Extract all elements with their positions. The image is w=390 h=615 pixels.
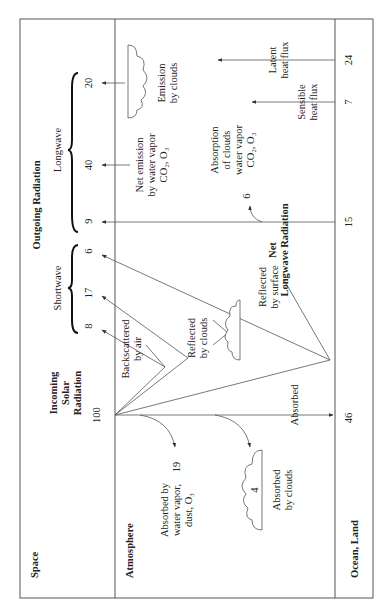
svg-text:by water vapor: by water vapor <box>146 133 157 196</box>
net-longwave-value: 15 <box>343 217 354 228</box>
longwave-absorption-label: Absorption of clouds water vapor CO₂, O₃ <box>209 125 256 175</box>
svg-text:by clouds: by clouds <box>283 470 294 511</box>
latent-heat-value: 24 <box>343 54 354 65</box>
svg-text:water vapor,: water vapor, <box>171 484 182 536</box>
incoming-value: 100 <box>91 407 102 423</box>
backscattered-label: Backscattered by air <box>120 319 143 379</box>
svg-text:Sensible: Sensible <box>296 84 307 120</box>
svg-text:Reflected: Reflected <box>257 266 268 307</box>
svg-text:Absorbed by: Absorbed by <box>159 482 170 537</box>
absorbed-gas-label: Absorbed by water vapor, dust, O₃ <box>159 482 194 537</box>
svg-text:Absorbed: Absorbed <box>271 469 282 511</box>
svg-text:Backscattered: Backscattered <box>120 319 131 379</box>
absorbed-clouds-label: Absorbed by clouds <box>271 469 294 511</box>
svg-text:Net emission: Net emission <box>134 137 145 193</box>
absorbed-clouds-value: 4 <box>249 487 260 493</box>
shortwave-brace <box>68 245 78 333</box>
gas-emission-label: Net emission by water vapor CO₂, O₃ <box>134 133 169 196</box>
absorption-arrow <box>250 206 262 222</box>
svg-text:Longwave Radiation: Longwave Radiation <box>279 203 290 296</box>
svg-text:Emission: Emission <box>156 63 167 103</box>
cloud-emission-label: Emission by clouds <box>156 63 179 104</box>
svg-text:Net: Net <box>267 242 278 258</box>
shortwave-reflected-surface-value: 6 <box>83 248 94 253</box>
radiation-budget-diagram: Space Atmosphere Ocean, Land Incoming So… <box>0 0 390 615</box>
reflecting-cloud-icon <box>225 300 240 360</box>
reflected-surface-leader <box>284 280 330 360</box>
region-label-atmosphere: Atmosphere <box>124 523 135 578</box>
reflected-surface-label: Reflected by surface <box>257 265 280 309</box>
longwave-gas-emission-value: 40 <box>83 160 94 171</box>
svg-text:Solar: Solar <box>60 381 71 405</box>
absorbed-gas-value: 19 <box>171 462 182 473</box>
svg-text:CO₂, O₃: CO₂, O₃ <box>158 147 169 182</box>
emitting-cloud-icon <box>128 45 147 118</box>
longwave-surface-value: 9 <box>83 218 94 223</box>
absorption-value: 6 <box>241 193 252 198</box>
outgoing-radiation-title: Outgoing Radiation <box>31 160 42 249</box>
svg-text:by air: by air <box>132 336 143 361</box>
svg-text:Radiation: Radiation <box>72 371 83 416</box>
shortwave-label: Shortwave <box>52 265 63 310</box>
svg-text:of clouds: of clouds <box>221 131 232 170</box>
sensible-heat-value: 7 <box>343 99 354 104</box>
svg-text:heat flux: heat flux <box>308 83 319 121</box>
longwave-cloud-emission-value: 20 <box>83 78 94 89</box>
incoming-solar-label: Incoming Solar Radiation <box>48 371 83 416</box>
backscattered-leader <box>146 345 165 367</box>
absorbed-clouds-arrow <box>215 415 250 447</box>
svg-text:Latent: Latent <box>267 47 278 74</box>
region-label-surface: Ocean, Land <box>349 520 360 578</box>
svg-text:CO₂, O₃: CO₂, O₃ <box>245 132 256 167</box>
absorbed-surface-value: 46 <box>343 413 354 424</box>
longwave-label: Longwave <box>52 128 63 173</box>
reflected-clouds-label: Reflected by clouds <box>186 317 209 358</box>
svg-text:Incoming: Incoming <box>48 371 59 414</box>
svg-text:heat flux: heat flux <box>279 41 290 79</box>
svg-text:dust, O₃: dust, O₃ <box>183 493 194 527</box>
latent-heat-label: Latent heat flux <box>267 41 290 79</box>
absorbed-surface-label: Absorbed <box>289 384 300 426</box>
longwave-brace <box>68 73 78 232</box>
sensible-heat-label: Sensible heat flux <box>296 83 319 121</box>
region-label-space: Space <box>29 551 40 578</box>
svg-text:Absorption: Absorption <box>209 126 220 174</box>
svg-text:by clouds: by clouds <box>198 318 209 359</box>
shortwave-backscattered-value: 8 <box>83 323 94 328</box>
svg-text:by clouds: by clouds <box>168 63 179 104</box>
shortwave-reflected-clouds-value: 17 <box>83 288 94 299</box>
svg-text:water vapor: water vapor <box>233 125 244 175</box>
absorbed-gas-arrow <box>140 415 175 447</box>
svg-text:Reflected: Reflected <box>186 317 197 358</box>
